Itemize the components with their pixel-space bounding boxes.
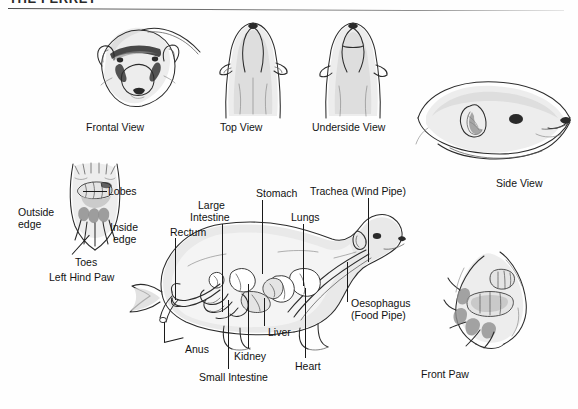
leader-stomach (262, 200, 263, 274)
caption-front-paw: Front Paw (421, 368, 469, 381)
label-large-intestine-line1: Large (198, 199, 225, 211)
header-divider (8, 8, 564, 11)
label-outside-edge-line1: Outside (18, 206, 54, 218)
label-outside-edge-line2: edge (18, 218, 41, 230)
caption-left-hind-paw: Left Hind Paw (49, 271, 114, 284)
label-oesophagus-line2: (Food Pipe) (351, 309, 406, 321)
underside-view-drawing (305, 16, 401, 118)
top-view-drawing (207, 16, 299, 118)
side-view-drawing (408, 72, 574, 177)
label-small-intestine: Small Intestine (199, 371, 268, 383)
leader-anus (164, 322, 165, 342)
label-large-intestine-line2: Intestine (190, 211, 230, 223)
leader-lobes (83, 191, 107, 192)
label-heart: Heart (295, 360, 321, 372)
caption-top-view: Top View (220, 121, 262, 134)
leader-kidney (248, 284, 249, 348)
leader-oesophagus (347, 262, 348, 302)
leader-trachea (368, 198, 369, 262)
label-rectum: Rectum (170, 226, 206, 238)
caption-side-view: Side View (496, 177, 543, 190)
label-stomach: Stomach (256, 187, 297, 199)
left-hind-paw-drawing (55, 160, 137, 260)
leader-heart (305, 288, 306, 358)
label-kidney: Kidney (234, 350, 266, 362)
label-oesophagus-line1: Oesophagus (351, 297, 411, 309)
frontal-view-drawing (76, 18, 206, 118)
label-lungs: Lungs (291, 211, 320, 223)
ferret-anatomy-page: THE FERRET (0, 0, 578, 409)
label-toes: Toes (75, 256, 97, 268)
label-liver: Liver (268, 326, 291, 338)
label-trachea: Trachea (Wind Pipe) (310, 185, 406, 197)
leader-liver (264, 298, 265, 326)
leader-small-intestine (228, 300, 229, 369)
leader-rectum (175, 238, 176, 300)
leader-lungs (303, 224, 304, 286)
page-title: THE FERRET (9, 0, 97, 6)
leader-large-intestine (222, 224, 223, 312)
label-anus: Anus (185, 343, 209, 355)
caption-frontal-view: Frontal View (86, 121, 144, 134)
caption-underside-view: Underside View (312, 121, 385, 134)
label-lobes: Lobes (108, 185, 137, 197)
front-paw-drawing (440, 252, 550, 364)
